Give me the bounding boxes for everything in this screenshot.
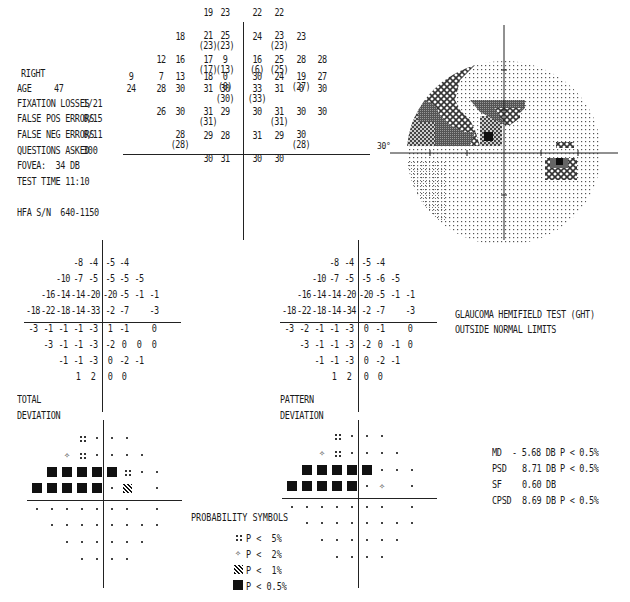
normal-dot — [317, 502, 327, 512]
normal-dot — [287, 502, 297, 512]
deviation-value: -1 — [367, 323, 393, 334]
deviation-value: -4 — [367, 257, 393, 268]
p05-symbol — [77, 483, 87, 493]
normal-dot — [407, 481, 417, 491]
index-probability: P < 0.5% — [560, 447, 599, 459]
normal-dot — [377, 465, 387, 475]
normal-dot — [362, 448, 372, 458]
legend-item-label: P < 5% — [246, 533, 282, 545]
normal-dot — [302, 518, 312, 528]
normal-dot — [122, 537, 132, 547]
legend-item-label: P < 1% — [246, 565, 282, 577]
p05-symbol — [302, 465, 312, 475]
index-value: 8.69 DB — [522, 495, 556, 507]
normal-dot — [137, 467, 147, 477]
normal-dot — [362, 552, 372, 562]
p05-symbol — [317, 481, 327, 491]
normal-dot — [137, 520, 147, 530]
normal-dot — [362, 431, 372, 441]
normal-dot — [92, 433, 102, 443]
normal-dot — [362, 481, 372, 491]
deviation-value: 0 — [111, 371, 137, 382]
index-label: MD — [492, 447, 502, 459]
normal-dot — [317, 535, 327, 545]
deviation-value: -1 — [397, 289, 423, 300]
p5-symbol — [123, 468, 131, 476]
ght-title: GLAUCOMA HEMIFIELD TEST (GHT) — [455, 309, 595, 321]
p05-symbol — [302, 481, 312, 491]
normal-dot — [362, 535, 372, 545]
deviation-value: -5 — [126, 273, 152, 284]
p2-symbol: ✧ — [377, 481, 387, 491]
normal-dot — [152, 467, 162, 477]
p2-symbol: ✧ — [317, 448, 327, 458]
normal-dot — [107, 483, 117, 493]
p5-symbol — [333, 449, 341, 457]
normal-dot — [47, 520, 57, 530]
deviation-value: 0 — [367, 371, 393, 382]
total-deviation-label-1: TOTAL — [17, 394, 41, 406]
normal-dot — [377, 552, 387, 562]
normal-dot — [377, 448, 387, 458]
p1-symbol — [123, 484, 132, 493]
deviation-value: 0 — [141, 339, 167, 350]
deviation-value: -5 — [382, 273, 408, 284]
p05-symbol — [287, 481, 297, 491]
normal-dot — [377, 518, 387, 528]
normal-dot — [92, 520, 102, 530]
p05-symbol — [62, 467, 72, 477]
normal-dot — [77, 554, 87, 564]
normal-dot — [122, 450, 132, 460]
normal-dot — [77, 504, 87, 514]
normal-dot — [317, 518, 327, 528]
normal-dot — [347, 518, 357, 528]
p05-symbol — [62, 483, 72, 493]
index-label: CPSD — [492, 495, 511, 507]
normal-dot — [47, 504, 57, 514]
index-value: 8.71 DB — [522, 463, 556, 475]
normal-dot — [107, 520, 117, 530]
thirty-degree-label: 30° — [377, 141, 391, 153]
legend-p1-icon — [234, 565, 243, 574]
p05-symbol — [92, 483, 102, 493]
p05-symbol — [92, 467, 102, 477]
p5-symbol — [333, 432, 341, 440]
p5-symbol — [78, 451, 86, 459]
normal-dot — [62, 520, 72, 530]
p05-symbol — [47, 483, 57, 493]
normal-dot — [347, 552, 357, 562]
index-probability: P < 0.5% — [560, 495, 599, 507]
pattern-prob-horizontal-axis — [282, 498, 437, 499]
normal-dot — [407, 465, 417, 475]
normal-dot — [347, 502, 357, 512]
index-value: - 5.68 DB — [512, 447, 555, 459]
total-prob-horizontal-axis — [27, 500, 182, 501]
p05-symbol — [77, 467, 87, 477]
legend-item-label: P < 0.5% — [246, 581, 287, 593]
normal-dot — [332, 502, 342, 512]
deviation-value: -3 — [141, 305, 167, 316]
normal-dot — [122, 433, 132, 443]
normal-dot — [152, 483, 162, 493]
normal-dot — [92, 537, 102, 547]
p05-symbol — [362, 465, 372, 475]
index-label: PSD — [492, 463, 506, 475]
p05-symbol — [317, 465, 327, 475]
normal-dot — [122, 504, 132, 514]
legend-p2-icon: ✧ — [233, 548, 243, 558]
normal-dot — [77, 520, 87, 530]
normal-dot — [92, 504, 102, 514]
normal-dot — [92, 554, 102, 564]
normal-dot — [392, 448, 402, 458]
legend-item-label: P < 2% — [246, 549, 282, 561]
legend-title: PROBABILITY SYMBOLS — [191, 512, 288, 524]
normal-dot — [152, 520, 162, 530]
normal-dot — [32, 504, 42, 514]
normal-dot — [302, 502, 312, 512]
normal-dot — [152, 504, 162, 514]
deviation-value: -3 — [397, 305, 423, 316]
p05-symbol — [107, 467, 117, 477]
index-value: 0.60 DB — [522, 479, 556, 491]
normal-dot — [107, 504, 117, 514]
grayscale-plot — [0, 0, 630, 250]
